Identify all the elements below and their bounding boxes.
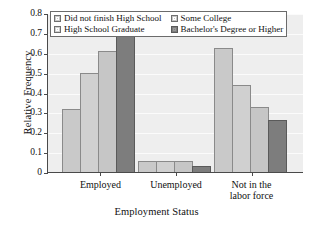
chart-legend: Did not finish High SchoolHigh School Gr… [50,11,287,37]
x-axis-category-label-line: labor force [230,190,274,201]
y-axis-tick-label: 0 [37,168,42,178]
x-axis-category-label-line: Unemployed [150,179,202,190]
y-axis-tick [44,113,48,114]
y-axis-tick-label: 0.6 [30,49,42,59]
bar [138,161,157,172]
x-axis-tick [100,172,101,176]
bar [250,107,269,172]
legend-label: Some College [181,13,232,23]
y-axis-tick [44,173,48,174]
y-axis-tick [44,153,48,154]
bar [80,73,99,172]
y-axis-tick [44,14,48,15]
y-axis-tick-label: 0.5 [30,69,42,79]
bar-group [214,14,290,172]
x-axis-tick [176,172,177,176]
bar [214,48,233,172]
y-axis-tick [44,74,48,75]
y-axis-tick [44,34,48,35]
x-axis-category-label: Employed [80,179,121,190]
x-axis-category-label-line: Not in the [230,179,274,190]
y-axis-tick-label: 0.4 [30,89,42,99]
legend-item[interactable]: Some College [171,13,284,23]
plot-inner [48,14,303,172]
legend-item[interactable]: Did not finish High School [54,13,162,23]
legend-swatch-icon [171,26,178,33]
legend-label: High School Graduate [64,24,144,34]
bar [232,85,251,172]
bar [62,109,81,172]
x-axis-title: Employment Status [0,206,313,217]
legend-item[interactable]: Bachelor's Degree or Higher [171,24,284,34]
bar [156,161,175,172]
y-axis-tick [44,133,48,134]
bar [174,161,193,172]
plot-area: 00.10.20.30.40.50.60.70.8 EmployedUnempl… [47,14,303,173]
y-axis-tick-label: 0.2 [30,129,42,139]
bar-group [138,14,214,172]
x-axis-category-label: Unemployed [150,179,202,190]
y-axis-tick [44,54,48,55]
bar [268,120,287,172]
legend-column: Did not finish High SchoolHigh School Gr… [54,13,162,34]
bar [192,166,211,172]
bar [116,32,135,172]
bar-group [62,14,138,172]
legend-swatch-icon [171,15,178,22]
legend-label: Bachelor's Degree or Higher [181,24,284,34]
x-axis-category-label-line: Employed [80,179,121,190]
y-axis-tick-label: 0.8 [30,9,42,19]
y-axis-tick-label: 0.3 [30,109,42,119]
y-axis-tick [44,94,48,95]
x-axis-category-label: Not in thelabor force [230,179,274,201]
y-axis-tick-label: 0.1 [30,148,42,158]
legend-column: Some CollegeBachelor's Degree or Higher [171,13,284,34]
legend-swatch-icon [54,26,61,33]
legend-swatch-icon [54,15,61,22]
legend-item[interactable]: High School Graduate [54,24,162,34]
legend-label: Did not finish High School [64,13,162,23]
x-axis-tick [252,172,253,176]
bar-chart-figure: Relative Frequency 00.10.20.30.40.50.60.… [0,0,313,225]
bar [98,51,117,172]
y-axis-tick-label: 0.7 [30,29,42,39]
